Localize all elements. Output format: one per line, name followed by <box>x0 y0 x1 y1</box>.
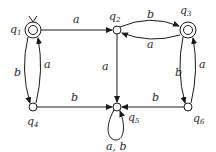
edge-q4-q1 <box>36 38 41 103</box>
transition-label-q4-q1: a <box>44 58 51 71</box>
state-label-q4: q4 <box>27 115 39 129</box>
state-label-q1: q1 <box>10 23 22 37</box>
transition-label-q2-q3: b <box>147 8 154 21</box>
state-q2 <box>113 26 121 34</box>
automaton-diagram: q1 q2 q3 q4 q5 q6 a b a b a a b a b b a,… <box>0 0 216 152</box>
edge-q6-q3 <box>191 38 196 103</box>
transition-label-q5-loop: a, b <box>106 140 127 152</box>
state-label-q6: q6 <box>193 112 205 126</box>
state-q6 <box>184 103 192 111</box>
state-q4 <box>29 103 37 111</box>
state-label-q2: q2 <box>109 10 121 24</box>
transition-label-q6-q3: a <box>199 58 206 71</box>
initial-arrow-icon <box>29 16 37 22</box>
edge-q5-q5-loop <box>108 110 123 140</box>
transition-label-q2-q5: a <box>102 60 109 73</box>
edges <box>24 20 195 140</box>
transition-label-q4-q5: b <box>71 91 78 104</box>
edge-q1-q4 <box>24 37 30 103</box>
transition-label-q6-q5: b <box>152 91 159 104</box>
state-q3 <box>180 22 196 38</box>
transition-label-q1-q2: a <box>73 13 80 26</box>
transition-label-q1-q4: b <box>14 66 21 79</box>
edge-q2-q3 <box>120 20 179 27</box>
state-q1 <box>25 22 41 38</box>
state-label-q5: q5 <box>128 111 140 125</box>
transition-label-q3-q2: a <box>147 38 154 51</box>
state-label-q3: q3 <box>180 4 192 18</box>
state-q5 <box>113 103 121 111</box>
transition-label-q3-q6: b <box>175 66 182 79</box>
